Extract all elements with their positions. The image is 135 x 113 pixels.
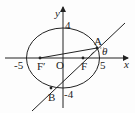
segment-f-prime-a (40, 48, 97, 58)
tick-y-neg: -4 (64, 88, 74, 100)
diagram-canvas: y x O 4 -4 -5 5 A B F F′ θ (0, 0, 135, 113)
tick-y-pos: 4 (65, 19, 71, 31)
point-b (50, 87, 53, 90)
angle-label: θ (102, 45, 108, 57)
origin-label: O (56, 59, 64, 71)
point-f-prime (39, 57, 42, 60)
ellipse-diagram: y x O 4 -4 -5 5 A B F F′ θ (0, 0, 135, 113)
label-f: F (81, 60, 87, 72)
label-f-prime: F′ (37, 60, 46, 72)
tick-x-pos: 5 (100, 59, 106, 71)
label-b: B (48, 91, 55, 103)
tick-x-neg: -5 (14, 59, 24, 71)
x-label: x (123, 58, 129, 70)
y-label: y (54, 7, 60, 19)
angle-arc (91, 52, 94, 55)
focal-chord-line (32, 23, 125, 111)
label-a: A (94, 35, 102, 47)
point-f (82, 57, 85, 60)
point-a (96, 47, 99, 50)
